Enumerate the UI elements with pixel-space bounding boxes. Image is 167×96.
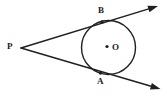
geometry-figure: P B A O — [0, 0, 167, 96]
circle-outline — [82, 21, 136, 75]
tangent-ray-lower-PA — [21, 48, 153, 87]
geometry-canvas — [0, 0, 167, 96]
centre-point-dot — [105, 45, 108, 48]
tangent-point-a-dot — [99, 71, 102, 74]
tangent-rays — [21, 6, 161, 90]
label-point-a: A — [97, 77, 104, 86]
arrowhead-upper-icon — [147, 6, 158, 13]
label-centre-o: O — [112, 43, 119, 52]
tangent-ray-upper-PB — [21, 8, 150, 48]
arrowhead-lower-icon — [150, 83, 161, 90]
label-point-b: B — [98, 6, 104, 15]
label-point-p: P — [7, 42, 13, 51]
tangent-point-b-dot — [100, 20, 103, 23]
